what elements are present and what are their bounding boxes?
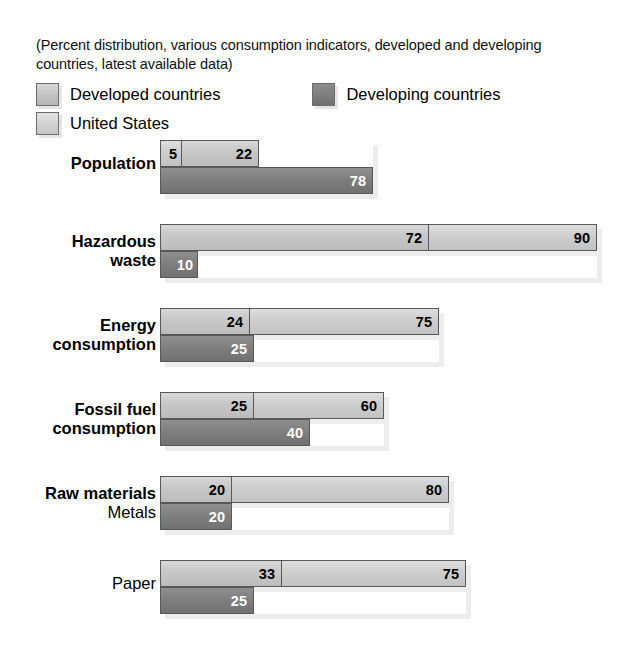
row-label-main: Paper: [6, 574, 156, 593]
chart-row-population: Population 5 22 78: [0, 140, 635, 224]
segment-developed: 75: [249, 308, 439, 335]
segment-developed: 90: [428, 224, 597, 251]
legend-label-developing: Developing countries: [346, 85, 500, 104]
row-label-main: Population: [6, 154, 156, 173]
row-label-main: Hazardous: [6, 232, 156, 251]
bar-lower-energy-consumption: 25: [160, 335, 439, 362]
segment-developing: 10: [160, 251, 198, 278]
row-label-main: Energy: [6, 316, 156, 335]
chart-row-energy-consumption: Energy consumption 24 75 25: [0, 308, 635, 392]
row-label-sub: consumption: [6, 335, 156, 354]
bar-upper-raw-materials-metals: 20 80: [160, 476, 449, 503]
row-label-main: Raw materials: [6, 484, 156, 503]
legend-row-1: Developed countries Developing countries: [36, 80, 606, 109]
bar-lower-fossil-fuel-consumption: 40: [160, 419, 384, 446]
bar-upper-population: 5 22: [160, 140, 373, 167]
row-label-hazardous-waste: Hazardous waste: [6, 232, 156, 270]
segment-united-states: 25: [160, 392, 254, 419]
row-label-sub: Metals: [6, 503, 156, 522]
segment-developed: 60: [253, 392, 384, 419]
segment-united-states: 33: [160, 560, 282, 587]
row-bars-fossil-fuel-consumption: 25 60 40: [160, 392, 384, 446]
segment-developed: 22: [181, 140, 259, 167]
row-bars-energy-consumption: 24 75 25: [160, 308, 439, 362]
row-label-energy-consumption: Energy consumption: [6, 316, 156, 354]
segment-developing: 25: [160, 335, 254, 362]
legend-swatch-united-states-icon: [36, 112, 59, 135]
chart-row-fossil-fuel-consumption: Fossil fuel consumption 25 60 40: [0, 392, 635, 476]
segment-united-states: 5: [160, 140, 182, 167]
chart-page: (Percent distribution, various consumpti…: [0, 0, 635, 645]
chart-row-raw-materials-metals: Raw materials Metals 20 80 20: [0, 476, 635, 560]
bar-lower-hazardous-waste: 10: [160, 251, 597, 278]
row-bars-paper: 33 75 25: [160, 560, 466, 614]
row-label-sub: consumption: [6, 419, 156, 438]
segment-developing: 20: [160, 503, 232, 530]
row-label-raw-materials-metals: Raw materials Metals: [6, 484, 156, 522]
row-label-paper: Paper: [6, 574, 156, 593]
segment-united-states: 72: [160, 224, 429, 251]
bar-lower-raw-materials-metals: 20: [160, 503, 449, 530]
chart-subtitle: (Percent distribution, various consumpti…: [36, 36, 596, 74]
bar-upper-fossil-fuel-consumption: 25 60: [160, 392, 384, 419]
legend-label-developed: Developed countries: [70, 85, 220, 104]
segment-united-states: 20: [160, 476, 232, 503]
chart-row-paper: Paper 33 75 25: [0, 560, 635, 644]
row-bars-hazardous-waste: 72 90 10: [160, 224, 597, 278]
row-bars-population: 5 22 78: [160, 140, 373, 194]
segment-developed: 75: [281, 560, 466, 587]
row-bars-raw-materials-metals: 20 80 20: [160, 476, 449, 530]
legend-label-united-states: United States: [70, 114, 169, 133]
segment-developed: 80: [231, 476, 449, 503]
row-label-population: Population: [6, 154, 156, 173]
bar-lower-population: 78: [160, 167, 373, 194]
legend-item-developed: Developed countries: [36, 83, 220, 106]
bar-lower-paper: 25: [160, 587, 466, 614]
chart-legend: Developed countries Developing countries…: [36, 80, 606, 138]
row-label-main: Fossil fuel: [6, 400, 156, 419]
legend-swatch-developed-icon: [36, 83, 59, 106]
legend-swatch-developing-icon: [312, 83, 335, 106]
chart-row-hazardous-waste: Hazardous waste 72 90 10: [0, 224, 635, 308]
segment-developing: 40: [160, 419, 310, 446]
segment-developing: 78: [160, 167, 373, 194]
legend-item-united-states: United States: [36, 112, 169, 135]
row-label-sub: waste: [6, 251, 156, 270]
segment-developing: 25: [160, 587, 254, 614]
legend-row-2: United States: [36, 109, 606, 138]
bar-upper-paper: 33 75: [160, 560, 466, 587]
legend-item-developing: Developing countries: [312, 83, 500, 106]
row-label-fossil-fuel-consumption: Fossil fuel consumption: [6, 400, 156, 438]
bar-chart: Population 5 22 78: [0, 140, 635, 644]
bar-upper-energy-consumption: 24 75: [160, 308, 439, 335]
segment-united-states: 24: [160, 308, 250, 335]
bar-upper-hazardous-waste: 72 90: [160, 224, 597, 251]
